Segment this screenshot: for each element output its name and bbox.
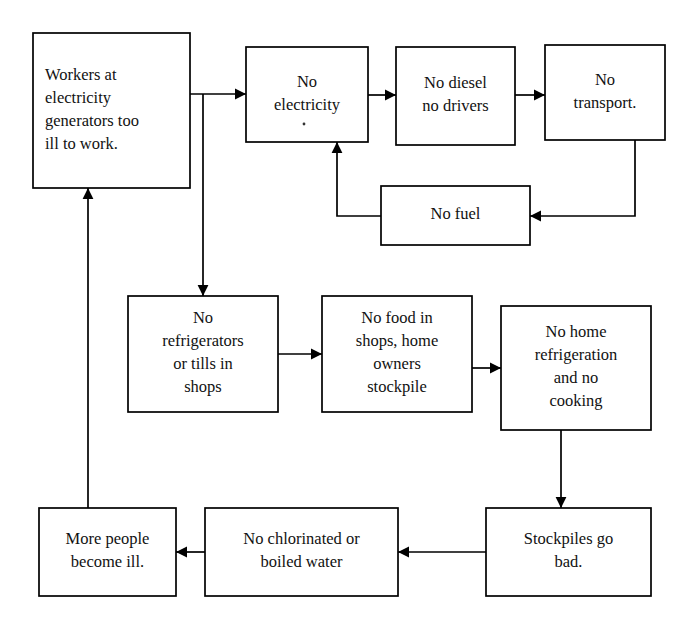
node-label-no-refrigerators-or-tills-in-shops-line-3: or tills in <box>173 354 233 373</box>
node-label-more-people-become-ill-line-2: become ill. <box>71 552 144 571</box>
node-layer: Workers atelectricitygenerators tooill t… <box>33 33 665 596</box>
node-no-home-refrigeration-and-no-cooking: No homerefrigerationand nocooking <box>501 306 651 430</box>
node-no-chlorinated-or-boiled-water: No chlorinated orboiled water <box>205 508 398 596</box>
edge-more-ill-to-workers-ill-arrowhead <box>83 188 94 199</box>
edge-no-transport-to-no-fuel-line <box>530 140 635 216</box>
edge-no-fuel-to-no-electricity-line <box>337 142 381 216</box>
edge-stockpiles-bad-to-no-clean-water <box>398 547 486 558</box>
edge-stockpiles-bad-to-no-clean-water-arrowhead <box>398 547 409 558</box>
node-label-no-electricity-line-1: No <box>297 72 317 91</box>
node-label-no-electricity-line-2: electricity <box>274 95 341 114</box>
edge-more-ill-to-workers-ill <box>83 188 94 508</box>
edge-no-diesel-to-no-transport <box>515 90 545 101</box>
node-label-no-refrigerators-or-tills-in-shops-line-1: No <box>193 308 213 327</box>
node-label-no-home-refrigeration-and-no-cooking-line-1: No home <box>546 322 607 341</box>
node-label-no-diesel-no-drivers-line-2: no drivers <box>422 96 488 115</box>
node-label-no-home-refrigeration-and-no-cooking-line-3: and no <box>554 368 598 387</box>
node-label-workers-at-electricity-generators-too-ill-to-work-line-3: generators too <box>45 111 139 130</box>
node-label-no-transport-line-1: No <box>595 70 615 89</box>
edge-workers-to-no-electricity-arrowhead <box>235 89 246 100</box>
node-label-no-chlorinated-or-boiled-water-line-2: boiled water <box>260 552 343 571</box>
node-no-food-in-shops-home-owners-stockpile: No food inshops, homeownersstockpile <box>322 296 472 412</box>
node-label-no-transport-line-2: transport. <box>574 93 637 112</box>
node-label-stockpiles-go-bad-line-1: Stockpiles go <box>524 529 613 548</box>
node-workers-at-electricity-generators-too-ill-to-work: Workers atelectricitygenerators tooill t… <box>33 33 190 188</box>
edge-no-electricity-to-no-diesel <box>368 90 396 101</box>
mark-layer <box>303 123 306 126</box>
edge-no-home-refrigeration-to-stockpiles-bad-arrowhead <box>556 497 567 508</box>
node-label-no-chlorinated-or-boiled-water-line-1: No chlorinated or <box>243 529 360 548</box>
flowchart-diagram: Workers atelectricitygenerators tooill t… <box>0 0 696 629</box>
edge-no-refrigerators-to-no-food <box>278 349 322 360</box>
edge-no-fuel-to-no-electricity-arrowhead <box>332 142 343 153</box>
node-label-no-food-in-shops-home-owners-stockpile-line-2: shops, home <box>356 331 439 350</box>
edge-workers-to-no-electricity <box>190 89 246 100</box>
node-no-fuel: No fuel <box>381 186 530 245</box>
node-label-workers-at-electricity-generators-too-ill-to-work-line-2: electricity <box>45 88 112 107</box>
edge-no-clean-water-to-more-ill <box>176 547 205 558</box>
edge-workers-branch-to-no-refrigerators-arrowhead <box>198 285 209 296</box>
node-label-more-people-become-ill-line-1: More people <box>66 529 150 548</box>
node-more-people-become-ill: More peoplebecome ill. <box>39 508 176 596</box>
node-no-refrigerators-or-tills-in-shops: Norefrigeratorsor tills inshops <box>128 296 278 412</box>
node-label-workers-at-electricity-generators-too-ill-to-work-line-1: Workers at <box>45 65 117 84</box>
node-label-no-diesel-no-drivers-line-1: No diesel <box>424 73 487 92</box>
node-label-no-home-refrigeration-and-no-cooking-line-2: refrigeration <box>535 345 617 364</box>
node-label-stockpiles-go-bad-line-2: bad. <box>555 552 583 571</box>
node-label-no-fuel-line-1: No fuel <box>431 204 481 223</box>
node-label-workers-at-electricity-generators-too-ill-to-work-line-4: ill to work. <box>45 134 118 153</box>
edge-no-home-refrigeration-to-stockpiles-bad <box>556 430 567 508</box>
node-no-transport: Notransport. <box>545 45 665 140</box>
node-no-diesel-no-drivers: No dieselno drivers <box>396 47 515 145</box>
edge-no-food-to-no-home-refrigeration-arrowhead <box>490 363 501 374</box>
node-label-no-food-in-shops-home-owners-stockpile-line-1: No food in <box>361 308 433 327</box>
edge-workers-branch-to-no-refrigerators <box>198 94 209 296</box>
edge-no-clean-water-to-more-ill-arrowhead <box>176 547 187 558</box>
flowchart-canvas: Workers atelectricitygenerators tooill t… <box>0 0 696 629</box>
edge-no-diesel-to-no-transport-arrowhead <box>534 90 545 101</box>
node-label-no-food-in-shops-home-owners-stockpile-line-4: stockpile <box>367 377 427 396</box>
edge-no-fuel-to-no-electricity <box>332 142 381 216</box>
edge-no-transport-to-no-fuel-arrowhead <box>530 211 541 222</box>
edge-no-transport-to-no-fuel <box>530 140 635 221</box>
node-stockpiles-go-bad: Stockpiles gobad. <box>486 508 651 596</box>
node-label-no-refrigerators-or-tills-in-shops-line-2: refrigerators <box>162 331 244 350</box>
node-label-no-refrigerators-or-tills-in-shops-line-4: shops <box>184 377 222 396</box>
edge-no-food-to-no-home-refrigeration <box>472 363 501 374</box>
edge-no-refrigerators-to-no-food-arrowhead <box>311 349 322 360</box>
node-label-no-food-in-shops-home-owners-stockpile-line-3: owners <box>373 354 421 373</box>
node-label-no-home-refrigeration-and-no-cooking-line-4: cooking <box>549 391 602 410</box>
edge-no-electricity-to-no-diesel-arrowhead <box>385 90 396 101</box>
node-no-electricity: Noelectricity <box>246 47 368 142</box>
stray-speck <box>303 123 306 126</box>
